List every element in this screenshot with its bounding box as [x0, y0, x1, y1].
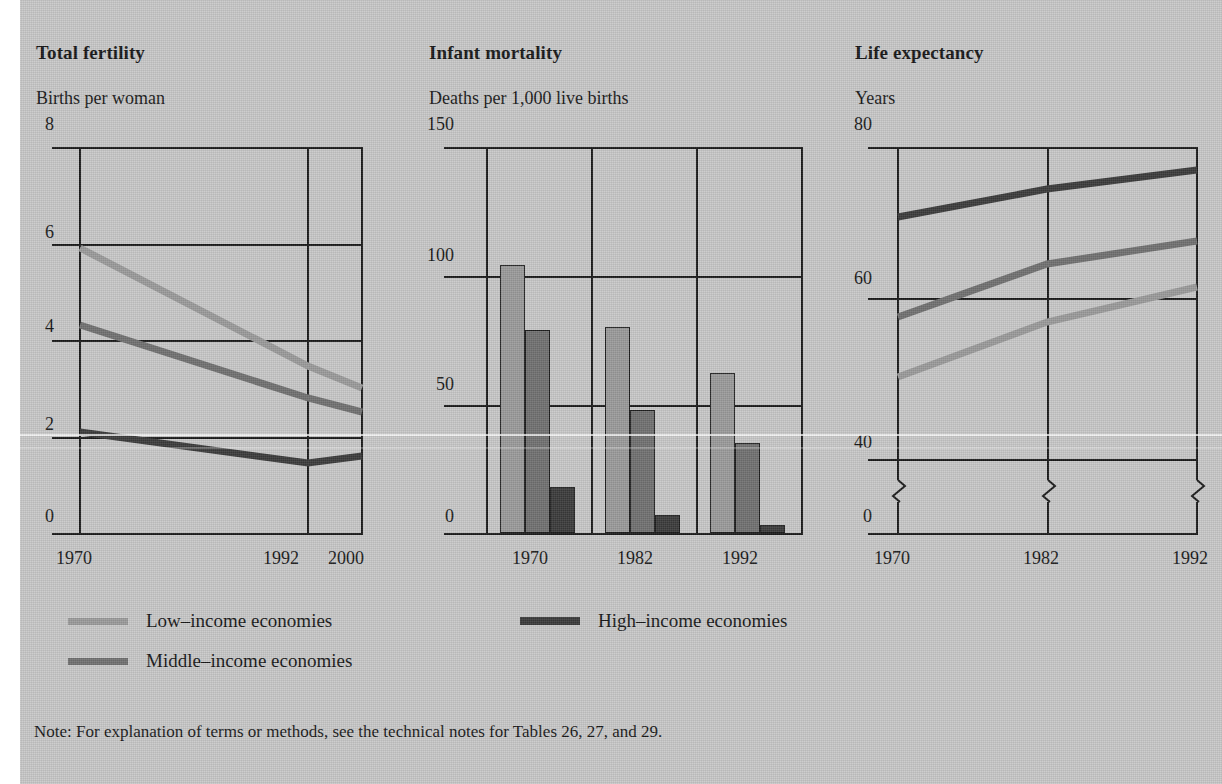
legend-swatch-low-income: [68, 618, 128, 625]
legend-swatch-middle-income: [68, 658, 128, 665]
figure-page: Total fertility Births per woman 8 6 4 2…: [20, 0, 1222, 784]
legend-item-high-income: High–income economies: [520, 610, 787, 632]
legend-label-middle-income: Middle–income economies: [146, 650, 352, 672]
chart-legend: Low–income economies Middle–income econo…: [20, 0, 1222, 784]
legend-item-middle-income: Middle–income economies: [68, 650, 352, 672]
legend-label-high-income: High–income economies: [598, 610, 787, 632]
legend-swatch-high-income: [520, 617, 580, 625]
legend-label-low-income: Low–income economies: [146, 610, 332, 632]
legend-item-low-income: Low–income economies: [68, 610, 332, 632]
figure-note: Note: For explanation of terms or method…: [34, 722, 662, 742]
